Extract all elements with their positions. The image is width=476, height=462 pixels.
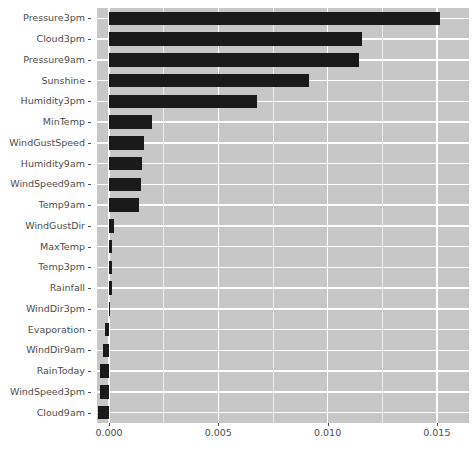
- x-axis-tick-mark: [437, 423, 438, 426]
- bar: [109, 178, 141, 192]
- y-axis-tick-mark: [88, 371, 91, 372]
- bar: [98, 406, 109, 420]
- gridline-horizontal: [97, 412, 469, 413]
- y-axis-tick-label: RainToday: [0, 366, 91, 376]
- y-axis-tick-mark: [88, 330, 91, 331]
- y-axis-tick-label: Cloud3pm: [0, 34, 91, 44]
- bar: [103, 344, 109, 358]
- y-axis-tick-label: Evaporation: [0, 325, 91, 335]
- bar: [109, 261, 112, 275]
- bar: [109, 157, 142, 171]
- x-axis-tick-label: 0.000: [95, 428, 122, 438]
- y-axis-tick-label: Pressure3pm: [0, 13, 91, 23]
- y-axis-tick-label: Humidity9am: [0, 159, 91, 169]
- x-axis-tick-label: 0.015: [423, 428, 450, 438]
- y-axis-labels: Pressure3pmCloud3pmPressure9amSunshineHu…: [0, 8, 91, 423]
- x-axis-tick-mark: [328, 423, 329, 426]
- bar: [109, 136, 144, 150]
- x-axis-tick-mark: [109, 423, 110, 426]
- y-axis-tick-mark: [88, 81, 91, 82]
- y-axis-tick-label: Humidity3pm: [0, 96, 91, 106]
- gridline-horizontal: [97, 329, 469, 330]
- y-axis-tick-mark: [88, 184, 91, 185]
- y-axis-tick-label: Rainfall: [0, 283, 91, 293]
- gridline-horizontal: [97, 204, 469, 205]
- x-axis: 0.0000.0050.0100.015: [97, 423, 469, 453]
- y-axis-tick-label: Pressure9am: [0, 55, 91, 65]
- y-axis-tick-label: MaxTemp: [0, 242, 91, 252]
- y-axis-tick-mark: [88, 226, 91, 227]
- bar: [109, 95, 257, 109]
- gridline-horizontal: [97, 267, 469, 268]
- gridline-horizontal: [97, 350, 469, 351]
- y-axis-tick-mark: [88, 413, 91, 414]
- y-axis-tick-mark: [88, 18, 91, 19]
- y-axis-tick-label: WindDir3pm: [0, 304, 91, 314]
- y-axis-tick-mark: [88, 267, 91, 268]
- gridline-vertical: [218, 8, 219, 423]
- gridline-horizontal: [97, 370, 469, 371]
- x-axis-tick-mark: [218, 423, 219, 426]
- gridline-horizontal: [97, 246, 469, 247]
- chart-root: Pressure3pmCloud3pmPressure9amSunshineHu…: [0, 0, 476, 462]
- plot-panel: [97, 8, 469, 423]
- gridline-vertical: [436, 8, 437, 423]
- y-axis-tick-mark: [88, 288, 91, 289]
- bar: [100, 364, 109, 378]
- y-axis-tick-mark: [88, 350, 91, 351]
- y-axis-tick-mark: [88, 309, 91, 310]
- bar: [109, 53, 359, 67]
- y-axis-tick-label: MinTemp: [0, 117, 91, 127]
- gridline-vertical-minor: [382, 8, 383, 423]
- bar: [109, 219, 114, 233]
- bar: [109, 281, 112, 295]
- y-axis-tick-label: Temp9am: [0, 200, 91, 210]
- gridline-horizontal: [97, 391, 469, 392]
- y-axis-tick-mark: [88, 392, 91, 393]
- bar: [105, 323, 109, 337]
- gridline-vertical: [327, 8, 328, 423]
- y-axis-tick-mark: [88, 143, 91, 144]
- gridline-vertical-minor: [163, 8, 164, 423]
- y-axis-tick-mark: [88, 101, 91, 102]
- bar: [109, 115, 152, 129]
- bar: [100, 385, 109, 399]
- bar: [109, 74, 309, 88]
- y-axis-tick-mark: [88, 39, 91, 40]
- y-axis-tick-label: WindDir9am: [0, 345, 91, 355]
- y-axis-tick-label: WindGustDir: [0, 221, 91, 231]
- y-axis-tick-mark: [88, 205, 91, 206]
- y-axis-tick-label: Temp3pm: [0, 262, 91, 272]
- gridline-horizontal: [97, 287, 469, 288]
- y-axis-tick-mark: [88, 247, 91, 248]
- gridline-horizontal: [97, 225, 469, 226]
- gridline-horizontal: [97, 163, 469, 164]
- y-axis-tick-label: Cloud9am: [0, 408, 91, 418]
- gridline-horizontal: [97, 184, 469, 185]
- bar: [109, 32, 362, 46]
- y-axis-tick-label: WindSpeed9am: [0, 179, 91, 189]
- gridline-vertical-minor: [273, 8, 274, 423]
- gridline-horizontal: [97, 308, 469, 309]
- bar: [109, 12, 440, 26]
- y-axis-tick-mark: [88, 60, 91, 61]
- bar: [109, 240, 112, 254]
- y-axis-tick-label: WindSpeed3pm: [0, 387, 91, 397]
- y-axis-tick-label: WindGustSpeed: [0, 138, 91, 148]
- x-axis-tick-label: 0.005: [205, 428, 232, 438]
- gridline-vertical: [108, 8, 109, 423]
- x-axis-tick-label: 0.010: [314, 428, 341, 438]
- bar: [109, 302, 110, 316]
- y-axis-tick-mark: [88, 122, 91, 123]
- bar: [109, 198, 139, 212]
- y-axis-tick-mark: [88, 164, 91, 165]
- gridline-horizontal: [97, 142, 469, 143]
- gridline-horizontal: [97, 121, 469, 122]
- y-axis-tick-label: Sunshine: [0, 76, 91, 86]
